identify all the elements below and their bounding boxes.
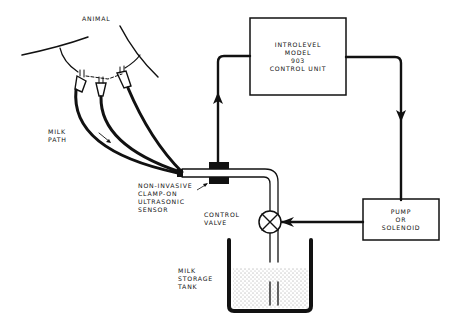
control-unit-line-4: CONTROL UNIT <box>250 65 346 73</box>
control-unit-label: INTROLEVEL MODEL 903 CONTROL UNIT <box>250 41 346 73</box>
tank-line-3: TANK <box>178 283 213 291</box>
sensor-line-2: CLAMP-ON <box>138 190 192 198</box>
animal-label: ANIMAL <box>82 15 111 23</box>
milk-contents <box>233 268 308 308</box>
milk-level-control-diagram: ANIMAL MILK PATH NON-INVASIVE CLAMP-ON U… <box>0 0 460 323</box>
teat-cup-2 <box>96 83 106 96</box>
control-unit-line-3: 903 <box>250 57 346 65</box>
milk-hose-1 <box>76 90 178 173</box>
milk-hose-3 <box>128 88 182 172</box>
tank-line-2: STORAGE <box>178 275 213 283</box>
milk-hose-2 <box>101 97 180 172</box>
pump-line-1: PUMP <box>363 208 439 216</box>
control-unit-line-2: MODEL <box>250 49 346 57</box>
pump-line-2: OR <box>363 216 439 224</box>
pump-label: PUMP OR SOLENOID <box>363 208 439 232</box>
sensor-line-3: ULTRASONIC <box>138 198 192 206</box>
milk-path-line-1: MILK <box>48 128 67 136</box>
tank-line-1: MILK <box>178 267 213 275</box>
valve-line-1: CONTROL <box>204 211 240 219</box>
sensor-label: NON-INVASIVE CLAMP-ON ULTRASONIC SENSOR <box>138 182 192 214</box>
signal-line-up <box>218 56 250 167</box>
signal-line-down <box>346 57 401 200</box>
teat-cup-3 <box>117 71 131 88</box>
pump-line-3: SOLENOID <box>363 224 439 232</box>
diagram-graphics <box>0 0 460 323</box>
ultrasonic-sensor-bottom <box>209 177 229 184</box>
animal-udder-left <box>22 37 88 55</box>
ultrasonic-sensor-top <box>209 162 229 169</box>
tank-label: MILK STORAGE TANK <box>178 267 213 291</box>
control-valve-label: CONTROL VALVE <box>204 211 240 227</box>
valve-line-2: VALVE <box>204 219 240 227</box>
milk-path-label: MILK PATH <box>48 128 67 144</box>
control-unit-line-1: INTROLEVEL <box>250 41 346 49</box>
sensor-line-1: NON-INVASIVE <box>138 182 192 190</box>
sensor-line-4: SENSOR <box>138 206 192 214</box>
animal-udder-right <box>120 26 158 77</box>
milk-path-line-2: PATH <box>48 136 67 144</box>
